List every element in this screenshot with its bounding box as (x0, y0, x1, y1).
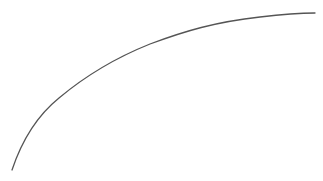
curve-line (12, 13, 315, 170)
curve-canvas (0, 0, 323, 181)
